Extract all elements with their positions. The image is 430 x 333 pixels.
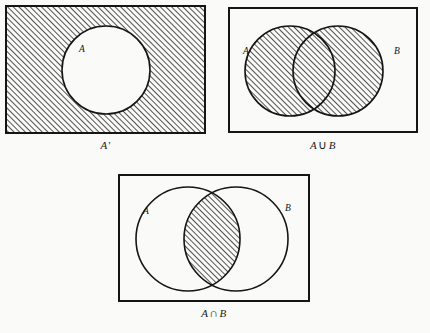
set-label-b: B [394, 47, 400, 57]
caption-complement: A′ [5, 139, 206, 151]
set-label-a: A [143, 207, 149, 217]
set-label-a: A [79, 45, 85, 55]
venn-figure-sheet: A A′ A B A∪B [0, 0, 430, 333]
venn-panel-complement: A [5, 5, 206, 134]
venn-panel-intersection: A B [118, 174, 310, 302]
caption-union-operator: ∪ [317, 138, 329, 152]
caption-complement-set: A [100, 139, 107, 151]
venn-complement-graphic [5, 5, 206, 134]
caption-intersection: A∩B [118, 306, 310, 321]
caption-complement-prime: ′ [108, 139, 111, 151]
caption-intersection-right: B [220, 307, 227, 319]
venn-panel-union: A B [228, 7, 418, 133]
set-label-a: A [243, 47, 249, 57]
venn-intersection-graphic [118, 174, 310, 302]
caption-union-right: B [329, 139, 336, 151]
caption-union: A∪B [228, 138, 418, 153]
caption-intersection-operator: ∩ [208, 306, 219, 320]
venn-union-graphic [228, 7, 418, 133]
set-label-b: B [285, 204, 291, 214]
